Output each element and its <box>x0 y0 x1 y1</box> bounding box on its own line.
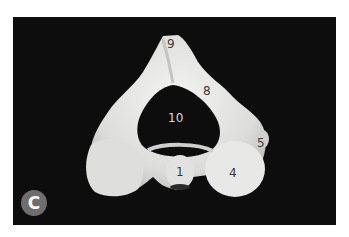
label-8: 8 <box>203 85 211 97</box>
label-4: 4 <box>229 167 237 179</box>
label-5: 5 <box>257 137 265 149</box>
vertebra-photo-panel: 9 8 10 5 1 4 C <box>13 17 336 225</box>
label-9: 9 <box>167 38 175 50</box>
label-1: 1 <box>176 166 184 178</box>
label-10: 10 <box>168 112 183 124</box>
panel-letter-badge: C <box>21 190 47 216</box>
